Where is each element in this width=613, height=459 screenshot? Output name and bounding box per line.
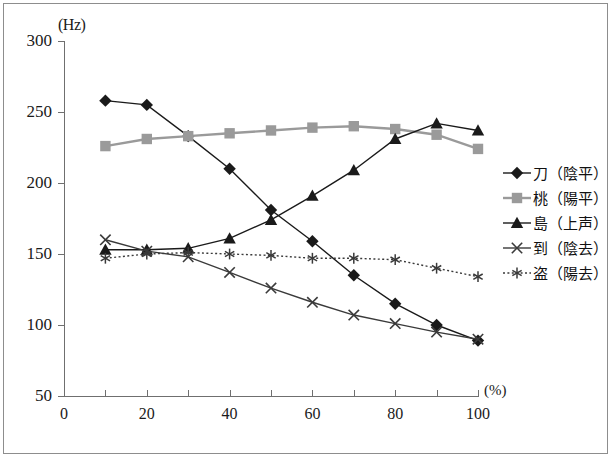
legend-marker-triangle-icon: [503, 215, 531, 231]
data-point-cross: [349, 310, 359, 320]
y-axis-tick-label: 150: [0, 245, 52, 262]
series-line: [105, 240, 478, 339]
data-point-square: [390, 124, 400, 134]
data-point-cross: [307, 297, 317, 307]
data-point-diamond: [389, 298, 401, 310]
data-point-triangle: [430, 117, 442, 128]
x-axis-tick-label: 80: [375, 406, 415, 422]
y-axis-unit-label: (Hz): [58, 16, 85, 34]
x-axis-line: [64, 396, 479, 397]
legend-label: 到（陰去）: [531, 237, 608, 258]
x-axis-tick-label: 100: [458, 406, 498, 422]
y-axis-tick: [58, 396, 64, 397]
legend-item[interactable]: 刀（陰平）: [503, 160, 611, 185]
x-axis-unit-label: (%): [484, 382, 507, 399]
series-3: [100, 235, 483, 345]
legend-marker-cross-icon: [503, 240, 531, 256]
data-point-square: [224, 128, 234, 138]
data-point-triangle: [306, 190, 318, 201]
x-axis-tick-label: 60: [292, 406, 332, 422]
series-line: [105, 126, 478, 149]
legend-label: 桃（陽平）: [531, 187, 608, 208]
data-point-square: [431, 130, 441, 140]
data-point-diamond: [141, 99, 153, 111]
data-point-diamond: [99, 94, 111, 106]
data-point-diamond: [511, 166, 523, 178]
plot-area: [64, 41, 478, 396]
y-axis-tick-label: 100: [0, 316, 52, 333]
series-line: [105, 123, 478, 249]
y-axis-tick-label: 50: [0, 387, 52, 404]
data-point-cross: [100, 235, 110, 245]
data-point-square: [473, 144, 483, 154]
data-point-square: [142, 134, 152, 144]
legend-marker-square-icon: [503, 190, 531, 206]
legend-label: 島（上声）: [531, 212, 608, 233]
series-line: [105, 253, 478, 277]
chart-legend: 刀（陰平）桃（陽平）島（上声）到（陰去）盗（陽去）: [503, 160, 611, 285]
data-point-square: [349, 121, 359, 131]
data-point-triangle: [265, 214, 277, 225]
legend-label: 盗（陽去）: [531, 262, 608, 283]
x-axis-tick-label: 0: [44, 406, 84, 422]
legend-label: 刀（陰平）: [531, 162, 608, 183]
data-point-diamond: [430, 319, 442, 331]
x-axis-tick-label: 20: [127, 406, 167, 422]
data-point-cross: [390, 318, 400, 328]
x-axis-tick-label: 40: [210, 406, 250, 422]
y-axis-tick-label: 200: [0, 174, 52, 191]
legend-item[interactable]: 盗（陽去）: [503, 260, 611, 285]
data-point-cross: [266, 283, 276, 293]
data-point-square: [512, 192, 522, 202]
data-point-cross: [224, 267, 234, 277]
legend-item[interactable]: 島（上声）: [503, 210, 611, 235]
legend-marker-asterisk-icon: [503, 265, 531, 281]
x-axis-tick: [478, 390, 479, 396]
series-1: [100, 121, 483, 154]
legend-marker-diamond-icon: [503, 165, 531, 181]
data-point-triangle: [389, 133, 401, 144]
data-point-triangle: [223, 232, 235, 243]
series-line: [105, 101, 478, 341]
y-axis-tick-label: 250: [0, 103, 52, 120]
data-point-triangle: [348, 164, 360, 175]
data-point-square: [100, 141, 110, 151]
legend-item[interactable]: 到（陰去）: [503, 235, 611, 260]
legend-item[interactable]: 桃（陽平）: [503, 185, 611, 210]
y-axis-tick-label: 300: [0, 32, 52, 49]
data-point-square: [307, 122, 317, 132]
chart-page: (Hz) (%) 30025020015010050 020406080100 …: [0, 0, 613, 459]
data-point-square: [266, 125, 276, 135]
data-point-square: [183, 131, 193, 141]
